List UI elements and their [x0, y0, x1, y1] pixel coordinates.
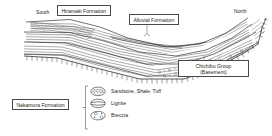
legend-label-sandstone-shale-tuff: Sandsone, Shale, Tuff	[111, 88, 161, 94]
legend-symbol-lignite	[91, 99, 105, 108]
legend-bracket	[83, 86, 89, 129]
orientation-label-south: South	[36, 9, 49, 15]
orientation-label-north: North	[234, 8, 247, 14]
unit-label-hiramaki-formation[interactable]: Hiramaki Formation	[57, 5, 111, 16]
unit-label-chichibu-group[interactable]: Chichibu Group (Basement)	[178, 60, 249, 77]
chichibu-line-2: (Basement)	[182, 69, 244, 75]
geologic-cross-section-figure: South North Hiramaki Formation Alluvial …	[0, 0, 272, 136]
legend-label-breccia: Breccia	[111, 112, 128, 118]
leader-line-alluvial	[144, 25, 150, 37]
legend-symbol-sandstone	[91, 87, 105, 96]
legend-symbol-breccia	[91, 111, 105, 120]
unit-label-nakamura-formation[interactable]: Nakamura Formation	[12, 99, 69, 110]
legend-label-lignite: Lignite	[111, 100, 126, 106]
unit-label-alluvial-formation[interactable]: Alluvial Formation	[129, 14, 179, 25]
basement-uplift-hatch	[250, 19, 265, 39]
